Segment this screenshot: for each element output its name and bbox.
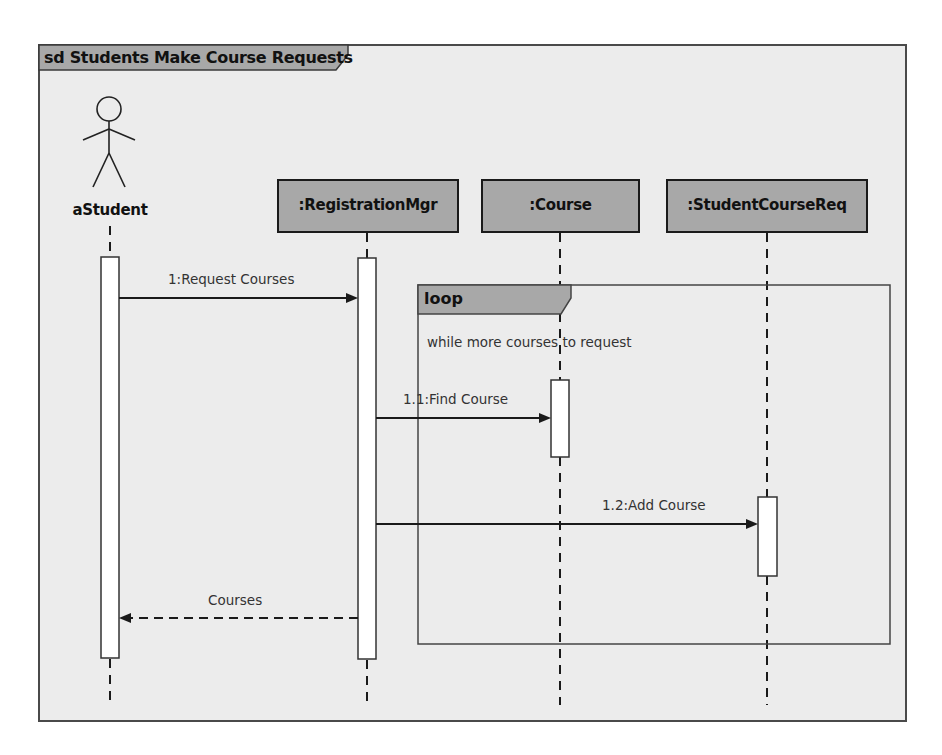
loop-operator-label: loop [424,289,463,308]
arrowhead-icon [746,519,758,529]
arrowhead-icon [346,293,358,303]
activation-course [551,380,569,457]
sequence-diagram-canvas [0,0,942,755]
message-label-courses-return: Courses [208,592,262,608]
activation-registrationmgr [358,258,376,659]
arrowhead-icon [539,413,551,423]
actor-icon [83,97,135,187]
lifeline-label-studentcoursereq: :StudentCourseReq [667,196,867,214]
loop-guard-label: while more courses to request [427,334,632,350]
lifeline-label-registrationmgr: :RegistrationMgr [278,196,458,214]
message-label-request-courses: 1:Request Courses [168,271,294,287]
message-label-find-course: 1.1:Find Course [403,391,508,407]
actor-label: aStudent [50,201,170,219]
lifeline-label-course: :Course [482,196,639,214]
activation-studentcoursereq [758,497,777,576]
frame-title: sd Students Make Course Requests [44,48,353,67]
activation-astudent [101,257,119,658]
arrowhead-icon [119,613,131,623]
message-label-add-course: 1.2:Add Course [602,497,706,513]
